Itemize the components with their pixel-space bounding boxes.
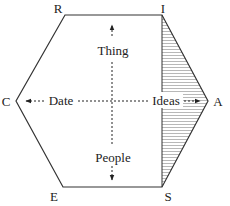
axis-label-thing: Thing — [97, 43, 129, 58]
axis-label-date: Date — [49, 93, 74, 108]
vertex-label-c: C — [2, 94, 11, 109]
vertex-label-e: E — [50, 189, 58, 204]
vertex-label-i: I — [161, 1, 165, 16]
vertex-label-a: A — [213, 94, 223, 109]
axis-label-people: People — [95, 150, 131, 165]
axis-label-ideas: Ideas — [152, 93, 179, 108]
hexagon-diagram: R I A S E C Thing People Date Ideas — [0, 0, 230, 206]
vertex-label-r: R — [54, 1, 63, 16]
vertex-label-s: S — [164, 189, 171, 204]
